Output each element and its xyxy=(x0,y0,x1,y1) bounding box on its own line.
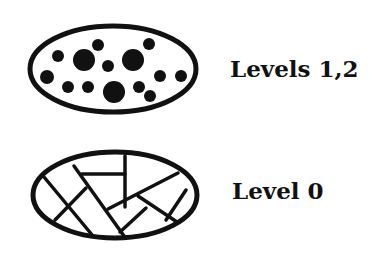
particle-ellipse-figure xyxy=(30,26,196,112)
crack-line xyxy=(120,208,146,232)
particle-dot xyxy=(52,50,64,62)
crack-line xyxy=(166,190,186,220)
particle-dot xyxy=(103,81,125,103)
particle-dot xyxy=(82,81,94,93)
particle-dot xyxy=(144,90,156,102)
particle-dot xyxy=(62,81,74,93)
particle-dot xyxy=(102,60,114,72)
particle-dot xyxy=(133,81,145,93)
particle-dot xyxy=(143,38,155,50)
particle-dot xyxy=(40,70,54,84)
crack-line xyxy=(55,188,86,220)
particle-dot xyxy=(73,49,95,71)
crack-line xyxy=(74,166,124,236)
particle-dot xyxy=(154,70,166,82)
cracked-ellipse-figure xyxy=(33,152,197,238)
level-0-label: Level 0 xyxy=(232,177,324,204)
crack-line xyxy=(108,173,178,209)
diagram-canvas xyxy=(0,0,387,253)
particle-dot xyxy=(175,70,187,82)
particle-dot xyxy=(92,39,104,51)
dot-cluster xyxy=(40,38,187,103)
crack-lines xyxy=(44,156,186,236)
levels-1-2-label: Levels 1,2 xyxy=(230,55,359,82)
particle-dot xyxy=(122,49,144,71)
